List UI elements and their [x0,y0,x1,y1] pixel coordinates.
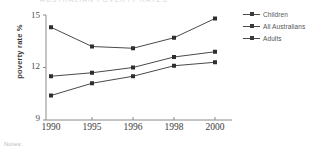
data-point [49,94,53,98]
data-point [172,36,176,40]
legend-marker-icon [243,22,260,30]
axis-lines [43,15,232,120]
notes-label: Notes: [4,141,23,147]
data-point [213,17,217,21]
data-point [213,50,217,54]
legend-item-children[interactable]: Children [243,8,309,20]
data-point [131,74,135,78]
legend-label: All Australians [263,23,305,30]
series-layer [49,17,217,98]
data-point [49,74,53,78]
data-point [213,60,217,64]
series-line [51,19,215,49]
data-point [131,46,135,50]
legend-item-adults[interactable]: Adults [243,32,309,44]
legend-marker-icon [243,10,260,18]
data-point [131,66,135,70]
legend-label: Adults [263,35,282,42]
series-children [49,17,217,51]
data-point [90,71,94,75]
chart-figure: AUSTRALIAN POVERTY RATES poverty rate % … [0,0,309,150]
data-point [90,45,94,49]
legend-marker-icon [243,34,260,42]
data-point [90,81,94,85]
legend-label: Children [263,11,288,18]
legend: Children All Australians Adults [243,8,309,44]
legend-item-all-australians[interactable]: All Australians [243,20,309,32]
data-point [49,25,53,29]
data-point [172,64,176,68]
data-point [172,55,176,59]
